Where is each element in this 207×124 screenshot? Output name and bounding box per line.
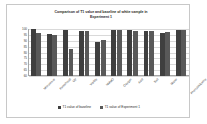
- x-axis-tick: Acid: [137, 78, 144, 85]
- bar-group: [92, 29, 108, 76]
- bar-group: [60, 29, 76, 76]
- legend-label: T1 value of Experiment 1: [105, 106, 140, 109]
- bar[interactable]: [36, 33, 41, 76]
- y-axis-tick: 100: [13, 28, 27, 31]
- bar[interactable]: [79, 31, 84, 76]
- y-axis-tick: 60: [13, 75, 27, 78]
- bar[interactable]: [47, 34, 52, 76]
- bars-layer: [28, 29, 189, 76]
- bar[interactable]: [63, 30, 68, 76]
- bar[interactable]: [31, 29, 36, 76]
- legend-swatch-icon: [100, 106, 103, 109]
- bar[interactable]: [117, 30, 122, 76]
- x-axis-tick-labels: MicrowaveFumehoodUVVisibleNMMOOxygenAcid…: [28, 77, 189, 107]
- x-axis-tick: Microwave: [43, 78, 56, 91]
- legend-item[interactable]: T1 value of Experiment 1: [100, 106, 140, 109]
- bar[interactable]: [85, 31, 90, 76]
- legend-label: T1 value of baseline: [63, 106, 92, 109]
- bar[interactable]: [160, 33, 165, 76]
- x-axis-tick: Oxygen: [123, 78, 133, 88]
- y-axis-tick: 65: [13, 69, 27, 72]
- bar[interactable]: [111, 30, 116, 76]
- bar[interactable]: [52, 35, 57, 76]
- chart-title-line-2: Experiment 1: [90, 15, 112, 19]
- bar[interactable]: [144, 31, 149, 76]
- bar[interactable]: [149, 31, 154, 76]
- bar[interactable]: [181, 30, 186, 76]
- bar-group: [109, 29, 125, 76]
- x-axis-tick: Water: [170, 78, 178, 86]
- chart-legend: T1 value of baselineT1 value of Experime…: [7, 106, 191, 109]
- x-axis-tick: UV: [73, 78, 78, 83]
- x-axis-tick: Visible: [90, 78, 99, 87]
- bar[interactable]: [101, 40, 106, 76]
- bar-group: [157, 29, 173, 76]
- bar-group: [28, 29, 44, 76]
- chart-container: Comparison of T1 value and baseline of w…: [6, 4, 190, 118]
- y-axis-tick: 90: [13, 39, 27, 42]
- y-axis-tick: 85: [13, 45, 27, 48]
- y-axis-tick: 95: [13, 33, 27, 36]
- bar[interactable]: [176, 30, 181, 76]
- bar-group: [125, 29, 141, 76]
- legend-swatch-icon: [58, 106, 61, 109]
- y-axis-tick: 75: [13, 57, 27, 60]
- y-axis-tick: 70: [13, 63, 27, 66]
- bar[interactable]: [165, 32, 170, 76]
- x-axis-tick: Phenol/Alkaline: [190, 78, 196, 95]
- bar[interactable]: [127, 30, 132, 76]
- x-axis-tick: Salt: [153, 78, 159, 84]
- bar[interactable]: [133, 31, 138, 76]
- bar-group: [44, 29, 60, 76]
- x-axis-tick: NMMO: [106, 78, 115, 87]
- y-axis-tick-labels: 1009590858075706560: [13, 27, 27, 78]
- chart-title-line-1: Comparison of T1 value and baseline of w…: [55, 10, 148, 14]
- bar[interactable]: [95, 42, 100, 76]
- chart-title: Comparison of T1 value and baseline of w…: [31, 10, 171, 20]
- bar-group: [76, 29, 92, 76]
- bar[interactable]: [69, 49, 74, 76]
- legend-item[interactable]: T1 value of baseline: [58, 106, 91, 109]
- bar-group: [173, 29, 189, 76]
- bar-group: [141, 29, 157, 76]
- y-axis-tick: 80: [13, 51, 27, 54]
